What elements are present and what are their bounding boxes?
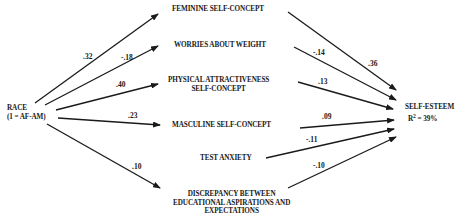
arrow-worries-selfesteem bbox=[294, 47, 396, 100]
arrow-masculine-selfesteem bbox=[300, 120, 394, 128]
coef-physical-selfesteem: .13 bbox=[318, 78, 327, 86]
node-worries-about-weight: WORRIES ABOUT WEIGHT bbox=[174, 41, 266, 50]
race-coding: (1 = AF-AM) bbox=[7, 113, 46, 122]
coef-feminine-selfesteem: .36 bbox=[368, 60, 377, 68]
r-squared: R2 = 39% bbox=[405, 112, 454, 124]
arrow-race-discrepancy bbox=[47, 124, 160, 188]
coef-race-worries: -.18 bbox=[121, 54, 133, 62]
node-masculine-self-concept: MASCULINE SELF-CONCEPT bbox=[172, 121, 271, 130]
arrow-feminine-selfesteem bbox=[288, 12, 396, 90]
race-label: RACE bbox=[7, 104, 46, 113]
coef-race-discrepancy: .10 bbox=[132, 163, 141, 171]
arrow-race-masculine bbox=[58, 118, 160, 125]
coef-discrepancy-selfesteem: -.10 bbox=[313, 162, 325, 170]
node-discrepancy: DISCREPANCY BETWEEN EDUCATIONAL ASPIRATI… bbox=[173, 190, 290, 216]
coef-masculine-selfesteem: .09 bbox=[322, 113, 331, 121]
arrow-race-feminine bbox=[35, 14, 158, 103]
self-esteem-label: SELF-ESTEEM bbox=[405, 103, 454, 112]
node-feminine-self-concept: FEMININE SELF-CONCEPT bbox=[172, 5, 264, 14]
node-physical-attractiveness: PHYSICAL ATTRACTIVENESS SELF-CONCEPT bbox=[168, 76, 269, 93]
coef-race-feminine: .32 bbox=[83, 53, 92, 61]
coef-race-physical: .40 bbox=[116, 81, 125, 89]
arrow-testanxiety-selfesteem bbox=[266, 129, 394, 158]
coef-testanxiety-selfesteem: -.11 bbox=[306, 136, 317, 144]
node-race: RACE (1 = AF-AM) bbox=[7, 104, 46, 121]
node-self-esteem: SELF-ESTEEM R2 = 39% bbox=[405, 103, 454, 123]
arrow-discrepancy-selfesteem bbox=[288, 137, 396, 188]
coef-worries-selfesteem: -.14 bbox=[313, 49, 325, 57]
node-test-anxiety: TEST ANXIETY bbox=[200, 154, 252, 163]
arrow-race-physical bbox=[56, 84, 158, 110]
coef-race-masculine: .23 bbox=[128, 112, 137, 120]
arrow-physical-selfesteem bbox=[298, 82, 393, 109]
